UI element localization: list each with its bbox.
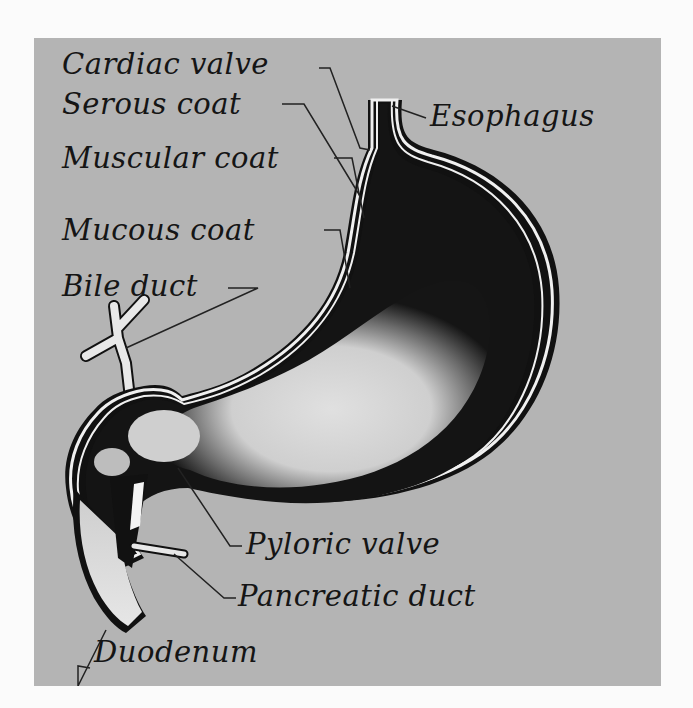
label-muscular-coat: Muscular coat	[62, 144, 279, 173]
label-cardiac-valve: Cardiac valve	[62, 50, 269, 79]
diagram-panel: Cardiac valve Serous coat Muscular coat …	[34, 38, 661, 686]
label-duodenum: Duodenum	[94, 638, 258, 667]
label-esophagus: Esophagus	[430, 102, 595, 131]
label-serous-coat: Serous coat	[62, 90, 241, 119]
label-pyloric-valve: Pyloric valve	[246, 530, 440, 559]
leader-cardiac-valve	[319, 68, 370, 150]
leader-pancreatic-duct	[174, 554, 236, 598]
label-bile-duct: Bile duct	[62, 272, 198, 301]
label-mucous-coat: Mucous coat	[62, 216, 255, 245]
bile-duct-shape	[86, 300, 144, 398]
label-pancreatic-duct: Pancreatic duct	[238, 582, 476, 611]
